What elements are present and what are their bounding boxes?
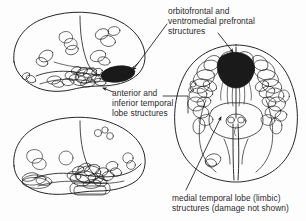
label-anterior-inferior-temporal: anterior and inferior temporal lobe stru…: [112, 88, 173, 119]
arrow-orbitofrontal-to-lateral: [133, 24, 167, 70]
label-anterior-temporal-line1: anterior and: [112, 88, 173, 98]
figure-canvas: orbitofrontal and ventromedial prefronta…: [0, 0, 306, 221]
lateral-brain-view-upper: [14, 12, 145, 91]
label-anterior-temporal-line3: lobe structures: [112, 108, 173, 118]
label-orbitofrontal-ventromedial: orbitofrontal and ventromedial prefronta…: [168, 6, 255, 37]
label-orbitofrontal-line3: structures: [168, 26, 255, 36]
label-medial-temporal-limbic: medial temporal lobe (limbic) structures…: [172, 193, 289, 213]
ventral-brain-view: [175, 45, 298, 182]
label-medial-temporal-line2: structures (damage not shown): [172, 203, 289, 213]
lateral-brain-view-lower: [14, 117, 145, 195]
label-orbitofrontal-line1: orbitofrontal and: [168, 6, 255, 16]
label-anterior-temporal-line2: inferior temporal: [112, 98, 173, 108]
label-orbitofrontal-line2: ventromedial prefrontal: [168, 16, 255, 26]
label-medial-temporal-line1: medial temporal lobe (limbic): [172, 193, 289, 203]
